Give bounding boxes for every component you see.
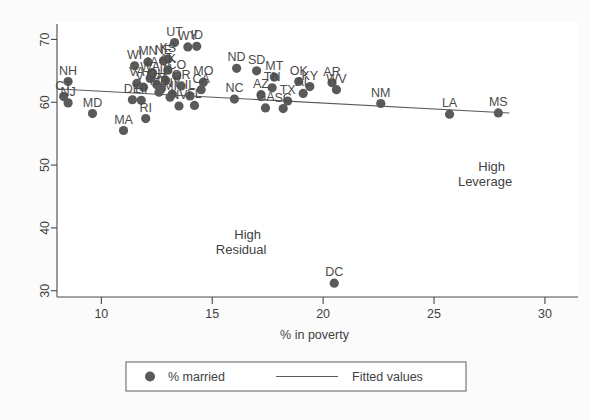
x-axis-tick-label: 15	[205, 307, 219, 321]
y-axis-tick-label: 50	[38, 158, 52, 172]
data-point-label: LA	[442, 96, 458, 110]
y-axis-tick-label: 40	[38, 221, 52, 235]
x-axis-tick-label: 30	[538, 307, 552, 321]
data-point-label: SD	[248, 53, 265, 67]
data-point-label: WV	[326, 72, 347, 86]
chart-legend: % marriedFitted values	[126, 362, 466, 391]
data-point	[119, 126, 128, 135]
y-axis-tick-label: 30	[38, 284, 52, 298]
y-axis-tick-label: 60	[38, 95, 52, 109]
data-point-label: DC	[325, 265, 343, 279]
data-point	[299, 89, 308, 98]
chart-annotation: Residual	[216, 242, 267, 257]
data-point-label: WA	[140, 60, 160, 74]
data-point-label: MD	[83, 96, 102, 110]
legend-marker-circle	[145, 372, 155, 382]
data-point-label: NC	[225, 81, 243, 95]
data-point-label: GA	[256, 90, 275, 104]
data-point	[332, 85, 341, 94]
x-axis-title: % in poverty	[280, 328, 350, 342]
chart-annotation: High	[478, 159, 505, 174]
data-point-label: NJ	[60, 85, 75, 99]
data-point-label: MS	[489, 95, 508, 109]
data-point	[88, 109, 97, 118]
legend-label-married: % married	[168, 370, 225, 384]
data-point-label: AK	[160, 52, 177, 66]
data-point	[261, 103, 270, 112]
data-point	[192, 42, 201, 51]
data-point-label: ID	[190, 28, 203, 42]
data-point-label: FL	[187, 87, 202, 101]
chart-annotation: Leverage	[458, 174, 512, 189]
data-point	[141, 114, 150, 123]
data-point-label: AL	[296, 75, 311, 89]
data-point	[63, 98, 72, 107]
data-point-label: MO	[193, 64, 213, 78]
data-point-label: HI	[135, 82, 148, 96]
y-axis-tick-label: 70	[38, 32, 52, 46]
data-point	[232, 64, 241, 73]
data-point	[183, 42, 192, 51]
data-point-label: ND	[228, 50, 246, 64]
data-point-label: MA	[114, 113, 133, 127]
data-point-label: TX	[280, 83, 297, 97]
data-point-label: TN	[264, 70, 281, 84]
data-point	[230, 95, 239, 104]
x-axis-tick-label: 10	[94, 307, 108, 321]
scatter-plot-figure: 3040506070 1015202530 NHCTNJMDMADERIHIVA…	[0, 0, 591, 420]
data-point	[174, 101, 183, 110]
chart-annotation: High	[234, 227, 261, 242]
legend-label-fitted: Fitted values	[352, 370, 423, 384]
chart-canvas: 3040506070 1015202530 NHCTNJMDMADERIHIVA…	[0, 0, 591, 420]
data-point	[190, 101, 199, 110]
data-point	[330, 279, 339, 288]
data-point-label: NM	[371, 86, 390, 100]
data-point-label: RI	[139, 101, 152, 115]
data-point	[128, 95, 137, 104]
data-point	[252, 66, 261, 75]
data-point-label: NH	[59, 64, 77, 78]
data-point	[376, 99, 385, 108]
x-axis-tick-label: 25	[427, 307, 441, 321]
data-point	[494, 108, 503, 117]
x-axis-tick-label: 20	[316, 307, 330, 321]
data-point	[445, 110, 454, 119]
